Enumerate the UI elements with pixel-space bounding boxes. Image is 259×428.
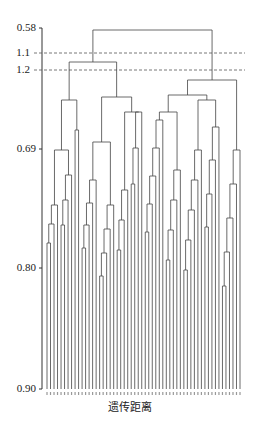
y-tick-0.80: 0.80: [0, 261, 36, 273]
y-tick-0.90: 0.90: [0, 382, 36, 394]
y-tick-0.58: 0.58: [0, 21, 36, 33]
dendrogram-chart: [0, 0, 259, 428]
y-tick-1.2: 1.2: [0, 63, 30, 75]
leaf-labels: [46, 392, 240, 395]
y-tick-1.1: 1.1: [0, 46, 30, 58]
dendrogram-tree: [47, 30, 240, 389]
y-tick-0.69: 0.69: [0, 142, 36, 154]
x-axis-label: 遗传距离: [0, 398, 259, 414]
